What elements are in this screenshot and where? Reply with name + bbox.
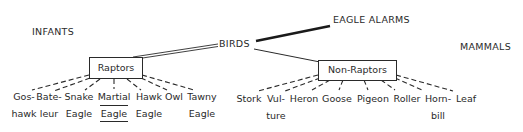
leaf-pigeon: Pigeon xyxy=(354,90,392,107)
leaf-leaf: Leaf xyxy=(452,90,480,107)
leaf-vulture: Vul- ture xyxy=(262,90,290,124)
leaf-tawny-eagle: Tawny Eagle xyxy=(185,88,219,122)
raptors-box: Raptors xyxy=(89,57,143,79)
mammals-label: MAMMALS xyxy=(460,41,511,52)
leaf-hornbill: Horn- bill xyxy=(422,90,454,124)
leaf-goose: Goose xyxy=(320,90,354,107)
leaf-hawk-eagle: Hawk Eagle xyxy=(135,88,163,122)
non-raptors-label: Non-Raptors xyxy=(328,64,387,75)
raptors-label: Raptors xyxy=(98,62,135,73)
leaf-owl: Owl xyxy=(163,88,185,105)
eagle-alarms-label: EAGLE ALARMS xyxy=(333,14,410,25)
leaf-martial-eagle: Martial Eagle xyxy=(95,88,133,122)
infants-label: INFANTS xyxy=(32,26,74,37)
martial-eagle-underline: Eagle xyxy=(100,105,128,122)
non-raptors-box: Non-Raptors xyxy=(318,60,397,81)
leaf-bateleur: Bate- leur xyxy=(34,88,64,122)
leaf-snake-eagle: Snake Eagle xyxy=(63,88,95,122)
leaf-stork: Stork xyxy=(234,90,264,107)
birds-root-label: BIRDS xyxy=(219,38,250,49)
leaf-roller: Roller xyxy=(390,90,424,107)
leaf-heron: Heron xyxy=(288,90,320,107)
